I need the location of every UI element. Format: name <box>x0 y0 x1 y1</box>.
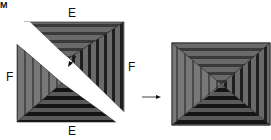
right-arrow-icon <box>142 95 161 99</box>
label-right-edge: F <box>128 61 135 73</box>
label-top-edge: E <box>68 7 76 19</box>
diagram-canvas <box>0 0 271 140</box>
label-left-edge: F <box>6 71 13 83</box>
assembled-square <box>172 43 270 125</box>
label-bottom-edge: E <box>68 125 76 137</box>
